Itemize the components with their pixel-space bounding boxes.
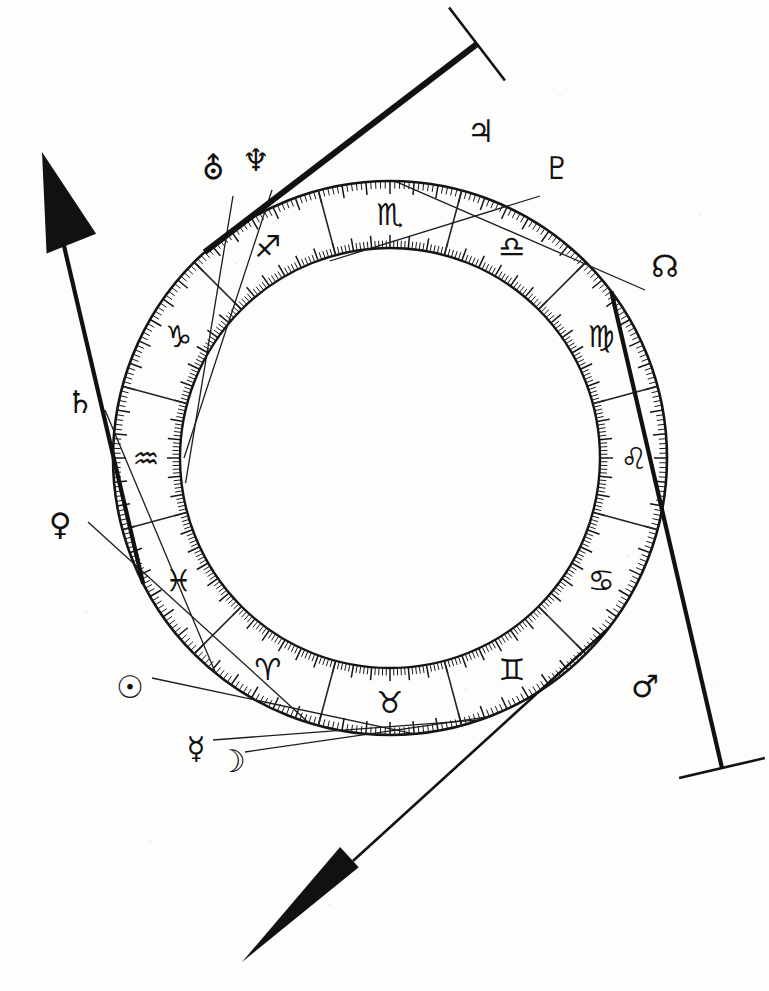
planet-glyph-mercury: ☿ (186, 730, 205, 766)
sign-glyph-scorpio: ♏ (377, 197, 404, 232)
degree-tick-inner (587, 382, 599, 386)
planet-glyph-moon: ☽ (218, 743, 246, 779)
sign-glyph-cancer: ♋ (588, 563, 615, 598)
degree-tick-inner (207, 578, 218, 585)
pointer-sun (152, 678, 414, 734)
degree-tick-outer (252, 218, 259, 229)
degree-tick-inner (207, 330, 218, 337)
paper-speck-3 (711, 685, 713, 687)
degree-tick-inner (426, 665, 428, 678)
paper-speck-5 (627, 555, 629, 557)
pointer-saturn (105, 410, 216, 673)
degree-tick-inner (408, 667, 409, 680)
sign-glyph-aquarius: ♒ (133, 441, 160, 476)
degree-tick-inner (219, 315, 229, 323)
degree-tick-inner (180, 382, 192, 386)
degree-tick-outer (653, 434, 666, 435)
axis-dsc-shaft (611, 291, 722, 768)
degree-tick-inner (371, 236, 372, 249)
degree-tick-outer (366, 721, 367, 734)
degree-tick-outer (295, 198, 299, 210)
sign-glyph-libra: ♎ (499, 229, 526, 264)
degree-tick-inner (597, 419, 610, 421)
sign-divider-leo (593, 386, 658, 403)
degree-tick-outer (130, 363, 142, 367)
degree-tick-inner (525, 287, 533, 297)
sign-glyph-pisces: ♓ (165, 563, 192, 598)
sign-glyph-leo: ♌ (621, 441, 648, 476)
degree-tick-inner (314, 655, 318, 667)
axis-ic-arrowhead (242, 847, 359, 962)
chart-wheel-svg: ♑♐♏♎♍♌♋♊♉♈♓♒ ⛢♆♃♇☊♂♄♀☉☿☽ (0, 0, 769, 991)
planet-glyph-sun: ☉ (116, 669, 144, 705)
axis-mc-crossbar (449, 7, 505, 80)
planet-glyph-jupiter: ♃ (467, 113, 495, 149)
sign-dividers (122, 190, 657, 725)
planet-glyph-uranus: ⛢ (202, 150, 225, 186)
degree-tick-outer (502, 697, 508, 709)
planet-glyph-pluto: ♇ (543, 150, 571, 186)
sign-glyph-gemini: ♊ (499, 652, 526, 687)
sign-glyph-aries: ♈ (255, 652, 282, 687)
degree-tick-outer (252, 687, 259, 698)
degree-tick-outer (522, 218, 529, 229)
degree-tick-inner (525, 619, 533, 629)
planet-glyph-mars: ♂ (631, 668, 659, 704)
sign-divider-cancer (593, 512, 658, 529)
degree-tick-outer (638, 363, 650, 367)
sign-glyph-sagittarius: ♐ (255, 229, 282, 264)
degree-tick-outer (150, 320, 161, 327)
paper-speck-9 (465, 689, 467, 691)
degree-tick-inner (408, 236, 409, 249)
planet-glyph-saturn: ♄ (66, 384, 94, 420)
degree-tick-inner (247, 287, 255, 297)
degree-tick-outer (629, 570, 641, 576)
planet-glyph-north-node: ☊ (651, 248, 679, 284)
degree-tick-inner (314, 248, 318, 260)
degree-tick-outer (436, 185, 438, 198)
sign-divider-capricorn (122, 386, 187, 403)
degree-tick-outer (342, 718, 344, 731)
degree-tick-inner (462, 655, 466, 667)
paper-speck-2 (699, 213, 701, 215)
degree-tick-inner (371, 667, 372, 680)
degree-tick-inner (562, 330, 573, 337)
degree-tick-inner (170, 419, 183, 421)
degree-tick-outer (629, 341, 641, 347)
astrology-chart: ♑♐♏♎♍♌♋♊♉♈♓♒ ⛢♆♃♇☊♂♄♀☉☿☽ (0, 0, 769, 991)
degree-tick-inner (180, 530, 192, 534)
degree-tick-inner (562, 578, 573, 585)
degree-tick-outer (638, 548, 650, 552)
degree-tick-inner (247, 619, 255, 629)
degree-tick-inner (262, 275, 269, 286)
degree-tick-inner (597, 494, 610, 496)
chart-axes (42, 7, 765, 962)
degree-tick-outer (619, 590, 630, 597)
degree-tick-outer (480, 706, 484, 718)
degree-tick-inner (551, 593, 561, 601)
degree-tick-outer (480, 198, 484, 210)
sign-glyph-capricorn: ♑ (165, 319, 192, 354)
degree-tick-inner (219, 593, 229, 601)
degree-tick-outer (150, 590, 161, 597)
degree-tick-inner (551, 315, 561, 323)
sign-divider-pisces (194, 606, 241, 653)
axis-ic-shaft (353, 629, 608, 861)
paper-speck-6 (329, 904, 331, 906)
sign-divider-gemini (538, 606, 585, 653)
degree-tick-outer (366, 182, 367, 195)
degree-tick-inner (168, 476, 181, 477)
degree-tick-inner (587, 530, 599, 534)
degree-tick-outer (273, 697, 279, 709)
degree-tick-inner (351, 238, 353, 251)
degree-tick-inner (462, 248, 466, 260)
paper-speck-4 (149, 841, 151, 843)
degree-tick-outer (273, 207, 279, 219)
sign-glyph-virgo: ♍ (588, 319, 615, 354)
degree-tick-outer (117, 410, 130, 412)
degree-tick-outer (139, 341, 151, 347)
degree-tick-inner (599, 439, 612, 440)
planet-glyph-venus: ♀ (49, 506, 72, 542)
degree-tick-outer (522, 687, 529, 698)
sign-divider-virgo (538, 262, 585, 309)
